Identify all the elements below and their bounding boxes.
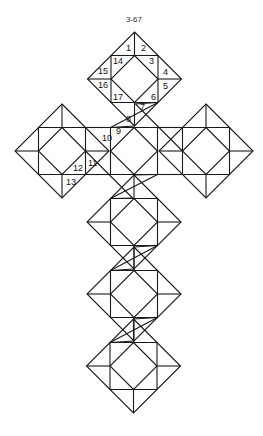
woven-diamond-cross-diagram: 1234567891011121314151617 [0,0,263,436]
middle-square [111,271,158,318]
piece-label-14: 14 [113,56,123,66]
piece-label-13: 13 [66,177,76,187]
piece-label-3: 3 [149,56,154,66]
middle-square [183,128,230,175]
inner-diamond [111,199,158,246]
piece-label-17: 17 [113,92,123,102]
piece-label-12: 12 [73,163,83,173]
piece-label-6: 6 [151,92,156,102]
piece-label-11: 11 [88,158,97,168]
piece-label-1: 1 [126,43,131,53]
inner-diamond [110,343,157,390]
piece-label-2: 2 [141,43,146,53]
piece-label-5: 5 [163,81,168,91]
piece-label-8: 8 [126,114,131,124]
inner-diamond [111,271,158,318]
piece-label-15: 15 [98,66,108,76]
weave-band [134,175,158,176]
weave-band [111,198,135,199]
piece-label-7: 7 [140,102,145,112]
piece-label-10: 10 [102,133,112,143]
piece-label-9: 9 [116,126,121,136]
piece-label-4: 4 [163,67,168,77]
middle-square [111,199,158,246]
inner-diamond [183,128,230,175]
diamond-blocks [15,32,253,413]
middle-square [110,343,157,390]
piece-label-16: 16 [98,80,108,90]
piece-number-labels: 1234567891011121314151617 [66,43,168,187]
